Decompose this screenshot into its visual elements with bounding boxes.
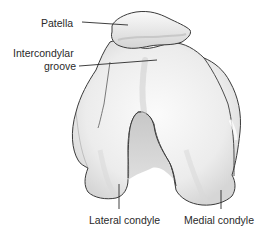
- femur: [72, 41, 240, 205]
- label-patella: Patella: [41, 17, 73, 29]
- knee-anatomy-diagram: [0, 0, 278, 231]
- patella: [111, 11, 190, 48]
- femur-outline: [72, 41, 240, 205]
- label-intercondylar-groove-line1: Intercondylar: [13, 47, 74, 59]
- label-medial-condyle: Medial condyle: [184, 214, 254, 226]
- label-lateral-condyle: Lateral condyle: [89, 214, 160, 226]
- patella-outline: [111, 11, 190, 48]
- label-intercondylar-groove-line2: groove: [44, 60, 76, 72]
